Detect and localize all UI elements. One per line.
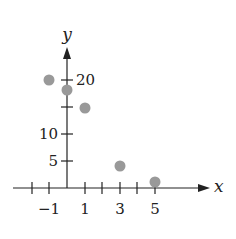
y-axis-arrow-icon bbox=[63, 47, 71, 59]
data-point bbox=[62, 85, 73, 96]
y-tick-label-5: 5 bbox=[48, 152, 58, 170]
data-point bbox=[80, 103, 91, 114]
data-points bbox=[44, 75, 161, 188]
x-tick-label-minus1: −1 bbox=[38, 200, 60, 218]
y-tick-label-10: 10 bbox=[39, 125, 58, 143]
x-tick-label-3: 3 bbox=[115, 200, 125, 218]
x-tick-label-5: 5 bbox=[150, 200, 160, 218]
scatter-chart: −1 1 3 5 5 10 20 x y bbox=[0, 0, 236, 239]
y-tick-label-20: 20 bbox=[76, 71, 95, 89]
data-point bbox=[150, 177, 161, 188]
data-point bbox=[44, 75, 55, 86]
y-axis-label: y bbox=[61, 24, 72, 44]
data-point bbox=[115, 161, 126, 172]
x-axis-arrow-icon bbox=[198, 184, 210, 192]
x-axis-label: x bbox=[214, 176, 224, 196]
x-tick-label-1: 1 bbox=[80, 200, 90, 218]
